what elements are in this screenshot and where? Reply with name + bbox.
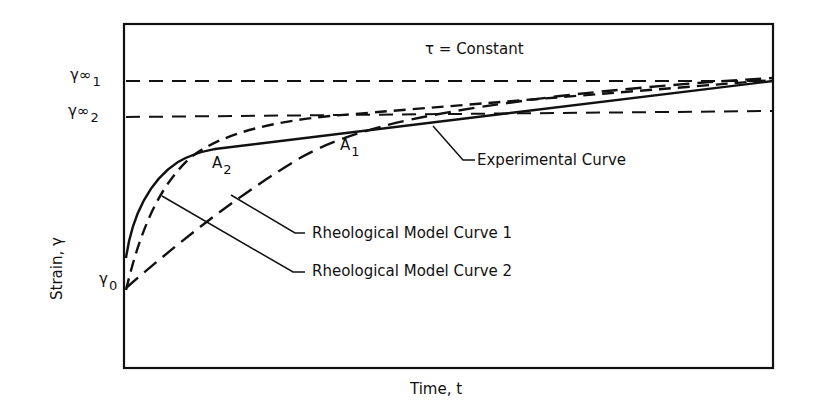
strain-time-diagram xyxy=(0,0,815,418)
subscript: 2 xyxy=(223,162,231,177)
subscript: 1 xyxy=(351,144,359,159)
point-a2-label: A2 xyxy=(212,154,232,172)
experimental-curve-label: Experimental Curve xyxy=(477,151,626,169)
model1-leader xyxy=(231,195,305,233)
plot-frame xyxy=(124,24,773,368)
chart-title: τ = Constant xyxy=(425,40,524,58)
model2-leader xyxy=(162,196,305,272)
model-curve-1 xyxy=(126,78,773,288)
gamma-text: γ xyxy=(99,270,108,288)
point-a1-label: A1 xyxy=(340,136,360,154)
gamma-inf-2-label: γ∞2 xyxy=(68,102,99,120)
y-axis-label: Strain, γ xyxy=(48,237,66,300)
gamma-inf-1-label: γ∞1 xyxy=(70,66,101,84)
point-letter: A xyxy=(340,136,350,154)
subscript: 2 xyxy=(90,110,98,125)
point-letter: A xyxy=(212,154,222,172)
x-axis-label: Time, t xyxy=(410,380,462,398)
subscript: 1 xyxy=(92,74,100,89)
model-curve-2-label: Rheological Model Curve 2 xyxy=(312,262,512,280)
gamma-0-label: γ0 xyxy=(99,270,117,288)
gamma-inf-text: γ∞ xyxy=(68,102,89,120)
experimental-leader xyxy=(433,126,475,160)
gamma-inf-text: γ∞ xyxy=(70,66,91,84)
subscript: 0 xyxy=(109,278,117,293)
model-curve-1-label: Rheological Model Curve 1 xyxy=(312,224,512,242)
